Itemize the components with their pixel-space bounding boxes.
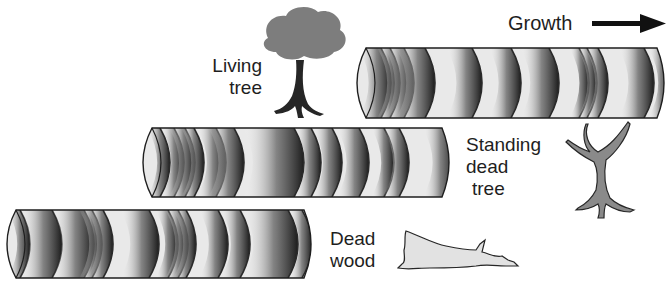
standing-dead-tree-core xyxy=(143,128,455,197)
standing-dead-tree-label-line3: tree xyxy=(466,178,541,200)
living-tree-icon xyxy=(264,7,346,118)
living-tree-label-line2: tree xyxy=(204,77,262,99)
living-tree-label: Living tree xyxy=(204,55,262,99)
living-tree-core xyxy=(357,48,671,118)
dead-wood-label: Dead wood xyxy=(330,228,375,272)
standing-dead-tree-icon xyxy=(566,122,634,218)
growth-arrow-icon xyxy=(592,14,666,33)
dead-wood-core xyxy=(7,210,312,278)
dead-wood-label-line1: Dead xyxy=(330,228,375,250)
standing-dead-tree-label-line2: dead xyxy=(466,156,541,178)
dead-wood-label-line2: wood xyxy=(330,250,375,272)
growth-label: Growth xyxy=(508,12,572,34)
standing-dead-tree-label-line1: Standing xyxy=(466,134,541,156)
standing-dead-tree-label: Standing dead tree xyxy=(466,134,541,200)
dead-wood-icon xyxy=(398,231,518,269)
living-tree-label-line1: Living xyxy=(204,55,262,77)
